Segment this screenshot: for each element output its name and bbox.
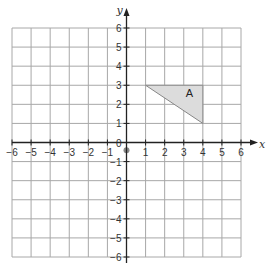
x-tick-label: −4	[44, 147, 56, 158]
y-tick-label: −6	[110, 252, 122, 263]
y-tick-label: 1	[116, 118, 122, 129]
y-tick-label: 3	[116, 80, 122, 91]
x-tick-label: 2	[162, 147, 168, 158]
y-tick-label: −3	[110, 195, 122, 206]
y-axis-arrow-icon	[124, 8, 130, 16]
x-tick-label: −2	[83, 147, 95, 158]
y-tick-label: 6	[116, 23, 122, 34]
x-axis-arrow-icon	[250, 140, 258, 146]
x-tick-label: 4	[200, 147, 206, 158]
x-tick-label: −6	[6, 147, 18, 158]
x-tick-label: −3	[64, 147, 76, 158]
y-axis-title: y	[116, 4, 124, 17]
shape-label-a: A	[186, 87, 194, 99]
y-tick-label: 5	[116, 42, 122, 53]
x-axis-title: x	[259, 138, 266, 151]
y-tick-label: 4	[116, 61, 122, 72]
y-tick-label: 0	[116, 138, 122, 149]
y-tick-label: −5	[110, 233, 122, 244]
axes	[12, 8, 258, 263]
x-tick-label: 6	[238, 147, 244, 158]
coordinate-grid: A −6−5−4−3−2−11234566543210−1−2−3−4−5−6 …	[0, 0, 269, 271]
y-tick-label: −1	[110, 157, 122, 168]
x-tick-label: 5	[219, 147, 225, 158]
y-tick-label: 2	[116, 99, 122, 110]
x-tick-label: −5	[25, 147, 37, 158]
x-tick-label: 3	[181, 147, 187, 158]
y-tick-label: −4	[110, 214, 122, 225]
x-tick-label: 1	[143, 147, 149, 158]
y-tick-label: −2	[110, 176, 122, 187]
